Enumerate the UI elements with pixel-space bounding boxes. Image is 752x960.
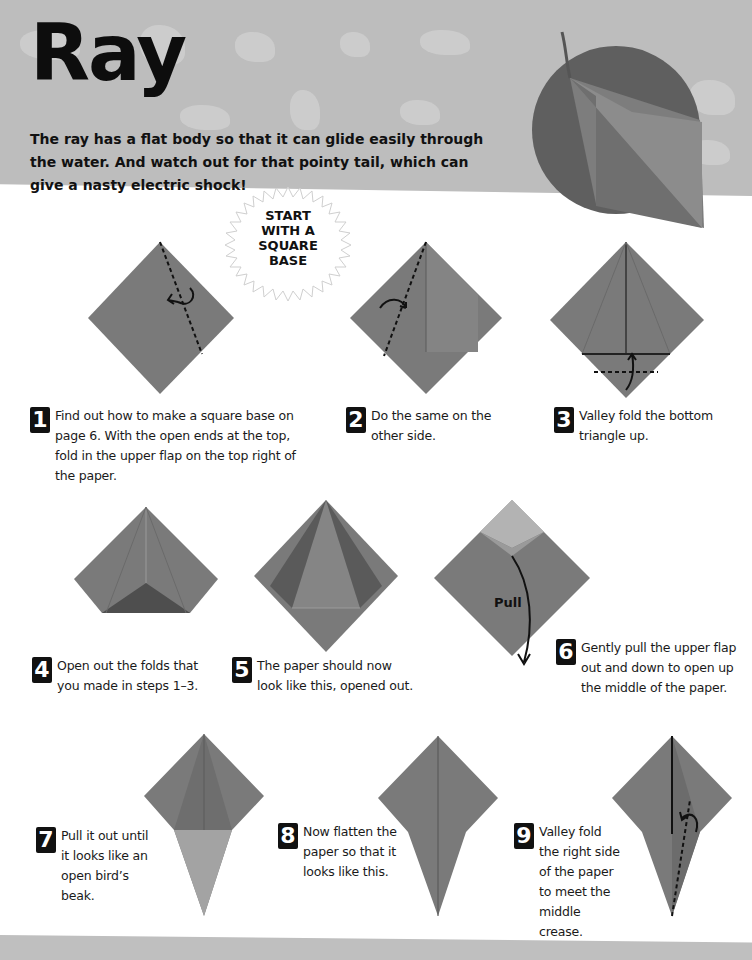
- step-8: 8 Now flatten the paper so that it looks…: [278, 822, 403, 882]
- step-instruction: Find out how to make a square base on pa…: [55, 406, 315, 486]
- step-4-diagram: [72, 505, 220, 617]
- start-badge-text: START WITH A SQUARE BASE: [224, 208, 352, 268]
- step-7-diagram: [142, 732, 266, 918]
- page-title: Ray: [30, 14, 185, 92]
- footer-background: [0, 935, 752, 960]
- step-9: 9 Valley fold the right side of the pape…: [514, 822, 622, 942]
- step-4: 4 Open out the folds that you made in st…: [32, 656, 207, 696]
- step-2: 2 Do the same on the other side.: [346, 406, 496, 446]
- step-number-badge: 6: [556, 639, 576, 665]
- finished-ray-image: [522, 30, 722, 230]
- step-instruction: Gently pull the upper flap out and down …: [581, 638, 746, 698]
- animal-silhouette: [180, 105, 230, 130]
- animal-silhouette: [340, 32, 370, 57]
- animal-silhouette: [420, 30, 470, 55]
- step-number-badge: 7: [36, 827, 56, 853]
- step-6: 6 Gently pull the upper flap out and dow…: [556, 638, 746, 698]
- animal-silhouette: [235, 32, 275, 62]
- step-number-badge: 3: [554, 407, 574, 433]
- step-1-diagram: [86, 240, 236, 396]
- step-7: 7 Pull it out until it looks like an ope…: [36, 826, 156, 906]
- step-number-badge: 9: [514, 823, 534, 849]
- step-number-badge: 2: [346, 407, 366, 433]
- step-instruction: Valley fold the right side of the paper …: [539, 822, 622, 942]
- step-instruction: Pull it out until it looks like an open …: [61, 826, 156, 906]
- step-number-badge: 1: [30, 407, 50, 433]
- animal-silhouette: [400, 100, 440, 125]
- step-3: 3 Valley fold the bottom triangle up.: [554, 406, 724, 446]
- step-3-diagram: [548, 240, 706, 400]
- step-1: 1 Find out how to make a square base on …: [30, 406, 315, 486]
- animal-silhouette: [290, 90, 320, 130]
- pull-label: Pull: [494, 595, 522, 610]
- step-9-diagram: [610, 734, 734, 918]
- step-5: 5 The paper should now look like this, o…: [232, 656, 417, 696]
- step-instruction: Valley fold the bottom triangle up.: [579, 406, 724, 446]
- step-instruction: Now flatten the paper so that it looks l…: [303, 822, 403, 882]
- step-5-diagram: [252, 498, 400, 654]
- step-instruction: Do the same on the other side.: [371, 406, 496, 446]
- step-instruction: The paper should now look like this, ope…: [257, 656, 417, 696]
- step-number-badge: 4: [32, 657, 52, 683]
- step-2-diagram: [348, 240, 504, 396]
- step-number-badge: 5: [232, 657, 252, 683]
- step-instruction: Open out the folds that you made in step…: [57, 656, 207, 696]
- step-number-badge: 8: [278, 823, 298, 849]
